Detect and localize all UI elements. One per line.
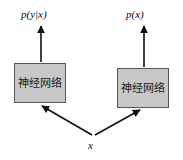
diagram-canvas: 神经网络 神经网络 p(y|x) p(x) x <box>0 0 183 160</box>
edge-input-to-right-network <box>95 110 140 135</box>
node-left-network-label: 神经网络 <box>18 78 62 89</box>
label-right-output: p(x) <box>126 9 144 20</box>
label-input: x <box>88 140 93 151</box>
label-left-output: p(y|x) <box>21 9 47 20</box>
node-right-network-label: 神经网络 <box>121 83 165 94</box>
edge-input-to-left-network <box>42 106 92 135</box>
node-right-network: 神经网络 <box>117 68 169 108</box>
node-left-network: 神经网络 <box>14 63 66 103</box>
